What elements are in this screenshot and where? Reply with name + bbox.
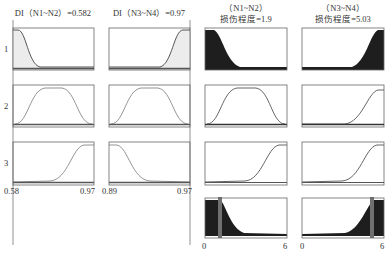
panel-c3-r1 — [205, 28, 287, 70]
panel-c2-r1 — [109, 28, 190, 70]
axis-c2-max: 0.97 — [177, 186, 192, 196]
panel-c4-r3 — [302, 142, 384, 185]
axis-c3-min: 0 — [202, 241, 206, 251]
axis-c4-max: 6 — [380, 241, 384, 251]
panel-c3-r4-aggregate — [205, 197, 287, 238]
panel-c1-r3 — [13, 142, 94, 185]
panel-c1-r2 — [13, 85, 94, 127]
axis-c1-max: 0.97 — [80, 186, 95, 196]
axis-c2-min: 0.89 — [102, 186, 117, 196]
panel-c2-r3 — [109, 142, 190, 185]
defuzz-marker-c4 — [370, 197, 374, 238]
panel-c4-r1 — [302, 28, 384, 70]
defuzz-marker-c3 — [218, 197, 222, 238]
axis-c4-min: 0 — [300, 241, 304, 251]
panel-c1-r1 — [13, 28, 94, 70]
fuzzy-rule-viewer — [0, 0, 389, 260]
panel-c2-r2 — [109, 85, 190, 127]
axis-c1-min: 0.58 — [4, 186, 19, 196]
panel-c4-r4-aggregate — [302, 197, 384, 238]
panel-c3-r2 — [205, 85, 287, 127]
panel-c3-r3 — [205, 142, 287, 185]
panel-c4-r2 — [302, 85, 384, 127]
axis-c3-max: 6 — [283, 241, 287, 251]
